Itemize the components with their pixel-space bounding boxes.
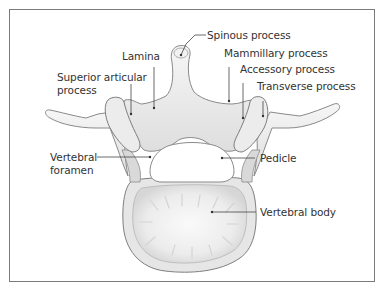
- label-lamina: Lamina: [122, 50, 160, 63]
- label-superior-articular-process-1: Superior articular: [57, 71, 147, 84]
- label-transverse-process: Transverse process: [257, 80, 356, 93]
- label-vertebral-body: Vertebral body: [260, 206, 336, 219]
- label-vertebral-foramen-2: foramen: [50, 164, 94, 177]
- vertebral-body-shape: [123, 177, 256, 273]
- label-spinous-process: Spinous process: [207, 29, 291, 42]
- label-superior-articular-process-2: process: [57, 84, 97, 97]
- label-mammillary-process: Mammillary process: [224, 47, 328, 60]
- vertebra-illustration: [0, 0, 383, 289]
- label-vertebral-foramen-1: Vertebral: [50, 151, 97, 164]
- label-pedicle: Pedicle: [260, 152, 296, 165]
- label-accessory-process: Accessory process: [240, 63, 335, 76]
